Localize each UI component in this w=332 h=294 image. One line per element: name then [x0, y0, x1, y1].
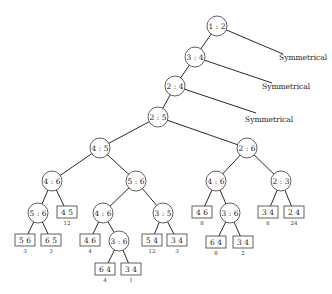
- leaf-node: 5 412: [142, 234, 162, 254]
- leaf-label: 5 6: [19, 236, 31, 245]
- node-label: 2 : 4: [167, 82, 184, 91]
- leaf-weight: 3: [175, 248, 179, 254]
- comparison-node: 4 : 6: [93, 203, 113, 223]
- leaf-node: 6 44: [95, 263, 115, 283]
- leaf-label: 5 4: [146, 236, 158, 245]
- comparison-node: 4 : 6: [206, 171, 226, 191]
- decision-tree-diagram: SymmetricalSymmetricalSymmetrical 1 : 23…: [0, 0, 332, 294]
- node-label: 5 : 6: [128, 177, 145, 186]
- leaf-label: 2 4: [288, 208, 300, 217]
- comparison-node: 5 : 6: [126, 171, 146, 191]
- node-label: 4 : 6: [208, 177, 225, 186]
- comparison-node: 3 : 5: [153, 203, 173, 223]
- leaf-label: 6 4: [210, 238, 222, 247]
- tree-edge: [158, 117, 247, 148]
- tree-svg: SymmetricalSymmetricalSymmetrical 1 : 23…: [0, 0, 332, 294]
- node-label: 2 : 5: [150, 113, 167, 122]
- leaf-node: 6 53: [41, 234, 61, 254]
- node-label: 3 : 5: [155, 209, 172, 218]
- leaf-node: 6 48: [206, 236, 226, 256]
- node-label: 1 : 2: [209, 22, 226, 31]
- comparison-node: 3 : 6: [220, 203, 240, 223]
- leaf-label: 3 4: [125, 265, 137, 274]
- leaf-weight: 12: [64, 220, 71, 226]
- leaf-node: 4 68: [192, 206, 212, 226]
- leaf-node: 4 64: [80, 234, 100, 254]
- leaf-node: 3 43: [167, 234, 187, 254]
- leaf-label: 4 5: [61, 208, 73, 217]
- leaf-weight: 8: [200, 220, 204, 226]
- leaf-node: 3 46: [258, 206, 278, 226]
- leaf-node: 2 424: [284, 206, 304, 226]
- leaf-weight: 4: [103, 277, 107, 283]
- symmetry-edge: [195, 57, 272, 83]
- node-label: 3 : 4: [187, 53, 204, 62]
- node-label: 4 : 6: [44, 177, 61, 186]
- symmetry-edge: [175, 86, 256, 113]
- symmetrical-branches: SymmetricalSymmetricalSymmetrical: [175, 26, 328, 124]
- leaf-weight: 4: [88, 248, 92, 254]
- comparison-node: 2 : 6: [237, 138, 257, 158]
- comparison-node: 4 : 5: [90, 138, 110, 158]
- node-label: 2 : 6: [239, 144, 256, 153]
- leaf-node: 4 512: [57, 206, 77, 226]
- leaf-label: 6 4: [99, 265, 111, 274]
- comparison-node: 5 : 6: [28, 203, 48, 223]
- comparison-node: 1 : 2: [207, 16, 227, 36]
- leaf-weight: 6: [266, 220, 270, 226]
- leaf-weight: 12: [149, 248, 156, 254]
- leaf-label: 4 6: [196, 208, 208, 217]
- leaf-label: 4 6: [84, 236, 96, 245]
- comparison-node: 3 : 4: [185, 47, 205, 67]
- leaf-weight: 24: [291, 220, 298, 226]
- node-label: 4 : 5: [92, 144, 109, 153]
- node-label: 2 : 3: [273, 177, 290, 186]
- leaf-node: 5 63: [15, 234, 35, 254]
- comparison-node: 2 : 5: [148, 107, 168, 127]
- node-label: 3 : 6: [222, 209, 239, 218]
- comparison-node: 2 : 3: [271, 171, 291, 191]
- leaf-label: 3 4: [262, 208, 274, 217]
- comparison-node: 3 : 6: [109, 231, 129, 251]
- symmetrical-label: Symmetrical: [262, 82, 311, 91]
- symmetry-edge: [217, 26, 283, 54]
- leaf-weight: 1: [129, 277, 133, 283]
- leaf-label: 6 5: [45, 236, 57, 245]
- comparison-node: 2 : 4: [165, 76, 185, 96]
- symmetrical-label: Symmetrical: [279, 53, 328, 62]
- leaf-weight: 2: [241, 250, 245, 256]
- leaf-weight: 3: [49, 248, 53, 254]
- leaf-node: 3 42: [233, 236, 253, 256]
- leaf-label: 3 4: [171, 236, 183, 245]
- leaf-weight: 8: [214, 250, 218, 256]
- node-label: 4 : 6: [95, 209, 112, 218]
- leaf-label: 3 4: [237, 238, 249, 247]
- node-label: 5 : 6: [30, 209, 47, 218]
- comparison-node: 4 : 6: [42, 171, 62, 191]
- leaf-node: 3 41: [121, 263, 141, 283]
- node-label: 3 : 6: [111, 237, 128, 246]
- leaf-weight: 3: [23, 248, 27, 254]
- symmetrical-label: Symmetrical: [245, 115, 294, 124]
